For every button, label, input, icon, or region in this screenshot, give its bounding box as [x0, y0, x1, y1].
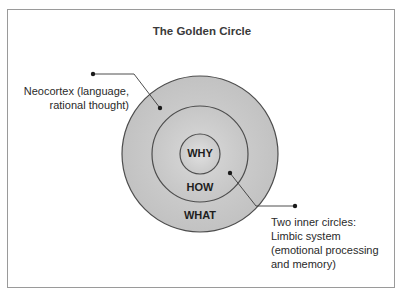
neocortex-annotation-line: Neocortex (language, — [24, 84, 129, 98]
neocortex-leader-end-dot — [158, 106, 162, 110]
neocortex-annotation-line: rational thought) — [24, 98, 129, 112]
neocortex-annotation: Neocortex (language, rational thought) — [24, 84, 129, 112]
limbic-leader-start-dot — [228, 171, 232, 175]
limbic-annotation-line: (emotional processing — [271, 243, 379, 257]
why-label: WHY — [160, 147, 240, 159]
how-label: HOW — [160, 181, 240, 193]
neocortex-leader-start-dot — [91, 72, 95, 76]
limbic-annotation-line: Limbic system — [271, 229, 379, 243]
limbic-annotation: Two inner circles: Limbic system (emotio… — [271, 215, 379, 271]
limbic-annotation-line: and memory) — [271, 257, 379, 271]
limbic-leader-end-dot — [293, 204, 297, 208]
limbic-annotation-line: Two inner circles: — [271, 215, 379, 229]
what-label: WHAT — [160, 209, 240, 221]
